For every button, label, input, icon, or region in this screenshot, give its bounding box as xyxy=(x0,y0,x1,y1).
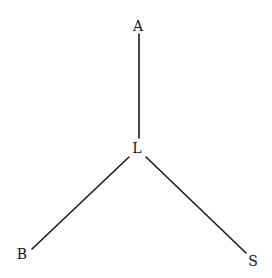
tree-diagram: A L B S xyxy=(0,0,272,278)
diagram-canvas: A L B S xyxy=(0,0,272,278)
node-s-label: S xyxy=(248,253,258,269)
edge-l-b xyxy=(32,157,129,249)
node-b-label: B xyxy=(17,246,27,262)
nodes: A L B S xyxy=(17,18,258,269)
node-l-label: L xyxy=(132,140,141,156)
node-a-label: A xyxy=(132,18,144,34)
edge-l-s xyxy=(146,157,246,253)
